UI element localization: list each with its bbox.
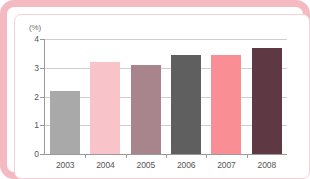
bar[interactable] — [211, 55, 241, 154]
bar-slot — [85, 39, 125, 154]
x-axis-tick-mark — [206, 154, 207, 158]
bar[interactable] — [131, 65, 161, 154]
x-axis-tick-mark — [247, 154, 248, 158]
x-axis-tick-mark — [126, 154, 127, 158]
x-axis-label: 2006 — [166, 160, 206, 170]
bar-slot — [166, 39, 206, 154]
chart-outer-frame: (%) 01234 200320042005200620072008 — [0, 0, 310, 179]
x-axis-label: 2003 — [45, 160, 85, 170]
y-axis-tick-label: 1 — [23, 120, 39, 130]
bar-slot — [126, 39, 166, 154]
x-axis-label: 2005 — [126, 160, 166, 170]
bar[interactable] — [252, 48, 282, 154]
bar-slot — [206, 39, 246, 154]
y-axis-tick-mark — [40, 154, 45, 155]
bar-slot — [45, 39, 85, 154]
bar-slot — [247, 39, 287, 154]
y-axis-unit-label: (%) — [29, 23, 41, 32]
bar[interactable] — [50, 91, 80, 154]
x-axis-labels-group: 200320042005200620072008 — [45, 160, 287, 176]
chart-plot-area: (%) 01234 200320042005200620072008 — [15, 15, 310, 179]
y-axis-tick-label: 2 — [23, 92, 39, 102]
y-axis-tick-label: 3 — [23, 63, 39, 73]
y-axis-tick-label: 4 — [23, 34, 39, 44]
bars-group — [45, 39, 287, 154]
bar[interactable] — [171, 55, 201, 154]
x-axis-label: 2004 — [86, 160, 126, 170]
chart-inner-panel: (%) 01234 200320042005200620072008 — [14, 14, 310, 179]
x-axis-tick-mark — [166, 154, 167, 158]
x-axis-tick-mark — [85, 154, 86, 158]
x-axis-label: 2008 — [247, 160, 287, 170]
y-axis-tick-label: 0 — [23, 149, 39, 159]
x-axis-label: 2007 — [207, 160, 247, 170]
bar[interactable] — [90, 62, 120, 154]
